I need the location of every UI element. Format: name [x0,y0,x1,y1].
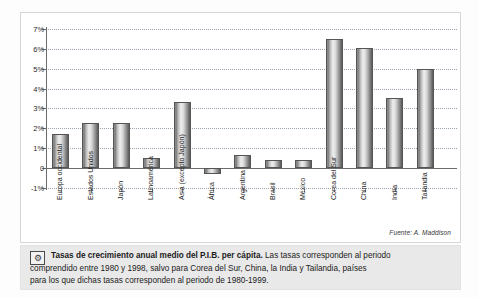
x-axis-label-1: Estados Unidos [87,151,94,200]
y-axis-label-3: 3% [20,104,44,113]
source-note: Fuente: A. Maddison [389,229,451,236]
bar-tailandia [417,69,434,168]
caption-bold-lead: Tasas de crecimiento anual medio del P.I… [51,251,263,260]
caption-line-2: comprendido entre 1980 y 1998, salvo par… [30,263,455,276]
bar-africa [204,168,221,174]
y-axis-label-6: 6% [20,44,44,53]
caption-line-1: Tasas de crecimiento anual medio del P.I… [51,250,451,263]
x-axis-label-12: Tailandia [421,172,428,200]
caption-rest-1: Las tasas corresponden al periodo [263,251,391,260]
y-axis-label-2: 2% [20,124,44,133]
x-axis-label-0: Europa occidental [56,144,63,200]
x-axis-label-10: China [360,182,367,200]
x-axis-label-9: Corea del Sur [330,157,337,200]
caption-band: ⚙ Tasas de crecimiento anual medio del P… [20,245,461,290]
bar-mexico [295,160,312,168]
chart-panel: 7% 6% 5% 4% 3% 2% 1% 0 -1% Europa occide… [20,12,461,243]
y-axis-label-neg1: -1% [20,183,44,192]
x-axis-label-4: Asia (excepto Japón) [178,134,185,200]
bars-layer: Europa occidentalEstados UnidosJapónLati… [46,13,457,244]
x-axis-label-2: Japón [117,181,124,200]
y-axis-label-1: 1% [20,144,44,153]
bar-india [386,98,403,168]
x-axis-label-3: Latinoamérica [147,156,154,200]
x-axis-label-8: México [299,178,306,200]
bar-japon [113,123,130,168]
bar-brasil [265,160,282,168]
bar-china [356,48,373,168]
x-axis-label-7: Brasil [269,182,276,200]
caption-line-3: para los que dichas tasas corresponden a… [30,275,455,288]
bar-corea-del-sur [326,39,343,168]
bar-argentina [234,155,251,168]
y-axis-label-4: 4% [20,84,44,93]
plot-area: 7% 6% 5% 4% 3% 2% 1% 0 -1% Europa occide… [21,13,460,242]
y-axis-label-7: 7% [20,25,44,34]
x-axis-label-11: India [391,185,398,200]
y-axis-label-5: 5% [20,64,44,73]
x-axis-label-6: Argentina [239,170,246,200]
page-root: 7% 6% 5% 4% 3% 2% 1% 0 -1% Europa occide… [0,0,478,298]
y-axis-label-0: 0 [20,164,44,173]
x-axis-label-5: África [208,182,215,200]
